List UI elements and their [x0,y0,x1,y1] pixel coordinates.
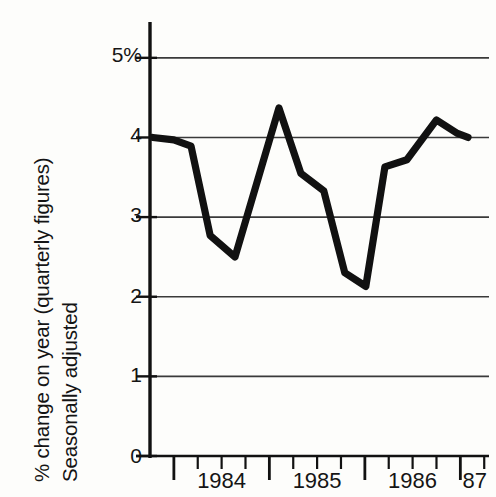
plot-area [0,0,496,497]
gridline-group [150,58,489,377]
line-chart: % change on year (quarterly figures) Sea… [0,0,496,497]
data-line-0 [153,108,468,286]
data-line-group [153,108,468,286]
axis-group [136,22,489,458]
